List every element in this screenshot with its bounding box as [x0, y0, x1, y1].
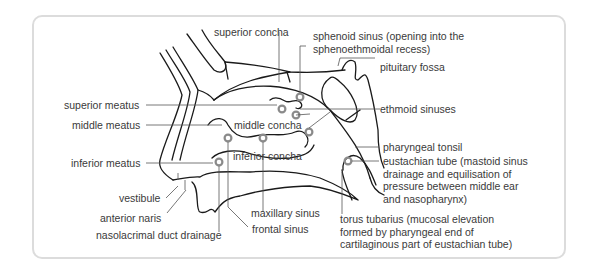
label-vestibule: vestibule [119, 192, 160, 205]
leader-lines [146, 32, 380, 232]
label-inferior-concha: inferior concha [233, 150, 302, 163]
frontal-sinus-ring [225, 135, 232, 142]
pituitary-fossa-outline [342, 60, 384, 168]
label-ethmoid-sinuses: ethmoid sinuses [380, 103, 456, 116]
label-pituitary-fossa: pituitary fossa [380, 61, 445, 74]
label-frontal-sinus: frontal sinus [252, 223, 309, 236]
label-maxillary-sinus: maxillary sinus [251, 207, 320, 220]
label-inferior-meatus: inferior meatus [71, 157, 140, 170]
label-eustachian-tube: eustachian tube (mastoid sinus drainage … [383, 155, 528, 205]
eustachian-tube-ring [345, 158, 352, 165]
maxillary-sinus-ring [260, 135, 267, 142]
label-superior-concha: superior concha [214, 26, 289, 39]
nasolacrimal-ring [216, 159, 223, 166]
label-superior-meatus: superior meatus [64, 99, 139, 112]
ethmoid-ring-2 [306, 129, 313, 136]
sphenoid-opening-ring [297, 94, 304, 101]
superior-meatus-ring [279, 106, 286, 113]
label-sphenoid-sinus: sphenoid sinus (opening into the sphenoe… [313, 30, 464, 55]
label-torus-tubarius: torus tubarius (mucosal elevation formed… [340, 213, 512, 251]
label-pharyngeal-tonsil: pharyngeal tonsil [383, 141, 462, 154]
label-middle-concha: middle concha [234, 119, 302, 132]
label-anterior-naris: anterior naris [100, 212, 161, 225]
label-nasolacrimal-duct: nasolacrimal duct drainage [96, 229, 222, 242]
label-middle-meatus: middle meatus [72, 119, 140, 132]
